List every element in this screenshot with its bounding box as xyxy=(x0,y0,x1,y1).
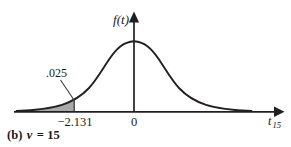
x-axis-label: t xyxy=(268,114,272,128)
x-axis-label-subscript: 15 xyxy=(273,120,282,130)
t-distribution-figure: .025 −2.131 0 f(t) t 15 (b) ν = 15 xyxy=(0,0,291,147)
tick-label-critical-value: −2.131 xyxy=(57,115,92,129)
y-axis-label: f(t) xyxy=(113,12,129,27)
caption-nu-symbol: ν xyxy=(26,128,34,142)
caption-part-label: (b) xyxy=(7,128,23,142)
t-distribution-plot: .025 −2.131 0 f(t) t 15 xyxy=(0,0,291,147)
tick-label-zero: 0 xyxy=(131,115,137,129)
caption-degrees-of-freedom: = 15 xyxy=(37,128,60,142)
x-axis-arrowhead xyxy=(274,107,285,117)
tail-area-label: .025 xyxy=(46,66,67,80)
tail-label-leader-line xyxy=(61,80,75,100)
figure-caption: (b) ν = 15 xyxy=(7,128,60,143)
y-axis-arrowhead xyxy=(129,12,139,23)
